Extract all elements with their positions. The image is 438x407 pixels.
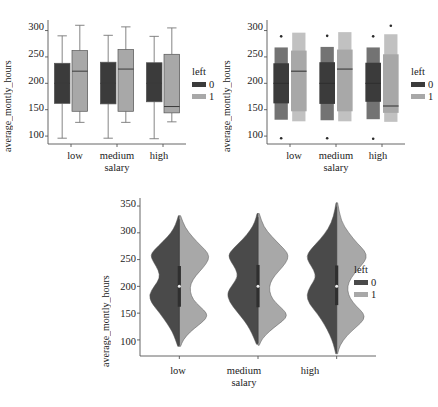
violinplot-panel: average_montly_hours 350 300 250 200 150… [100,180,438,407]
boxplot-box [164,28,180,122]
violin-body [307,203,336,354]
legend-swatch-1-icon [192,94,206,99]
box-body [72,51,88,112]
boxenplot-legend-label-1: 1 [428,91,433,102]
boxenplot-legend-title: left [411,66,433,77]
outlier-point [280,35,283,38]
violin-median-point [257,285,260,288]
legend-swatch-0-icon [411,82,425,87]
violin-median-point [178,285,181,288]
boxenplot-legend-label-0: 0 [428,79,433,90]
violinplot-legend-label-1: 1 [371,289,376,300]
violinplot-legend-title: left [354,264,376,275]
boxplot-xtick-medium: medium [100,150,134,161]
boxplot-legend-item-1[interactable]: 1 [192,91,214,102]
boxen-group [383,25,399,122]
boxen-group [337,32,353,121]
boxplot-xtick-high: high [150,150,169,161]
violinplot-legend: left 0 1 [354,264,376,301]
legend-swatch-0-icon [192,82,206,87]
boxenplot-legend-item-0[interactable]: 0 [411,79,433,90]
violinplot-xlabel: salary [204,377,284,388]
boxen-box [365,63,381,102]
boxen-group [365,35,381,140]
boxplot-box [146,36,162,138]
boxen-box [383,54,399,113]
boxenplot-xtick-low: low [286,150,302,161]
violin-body [228,214,258,345]
outlier-point [372,35,375,38]
boxplot-xlabel: salary [75,162,159,173]
violinplot-legend-label-0: 0 [371,277,376,288]
boxplot-legend-label-1: 1 [209,91,214,102]
boxenplot-legend-item-1[interactable]: 1 [411,91,433,102]
boxplot-xtick-low: low [67,150,83,161]
violinplot-xtick-medium: medium [227,365,261,376]
box-body [164,54,180,113]
legend-swatch-1-icon [411,94,425,99]
violinplot-canvas [100,180,438,407]
outlier-point [280,137,283,140]
outlier-point [390,25,393,28]
boxplot-box [54,36,70,138]
boxplot-legend-item-0[interactable]: 0 [192,79,214,90]
boxen-group [273,35,289,139]
box-body [118,50,134,112]
violin-body [150,216,180,347]
boxenplot-panel: average_montly_hours 300 250 200 150 100… [219,0,438,180]
violin-median-point [335,285,338,288]
boxplot-legend-label-0: 0 [209,79,214,90]
boxenplot-xlabel: salary [294,162,378,173]
boxplot-box [118,27,134,123]
boxplot-panel: average_montly_hours 300 250 200 150 100… [0,0,219,180]
violinplot-xtick-low: low [170,365,186,376]
boxen-group [319,35,335,140]
boxen-box [337,50,353,112]
boxplot-legend-title: left [192,66,214,77]
boxen-box [291,51,307,112]
boxen-group [291,33,307,122]
boxenplot-legend: left 0 1 [411,66,433,103]
boxplot-box [100,35,116,138]
violinplot-legend-item-0[interactable]: 0 [354,277,376,288]
outlier-point [326,137,329,140]
boxenplot-xtick-medium: medium [319,150,353,161]
boxenplot-xtick-high: high [369,150,388,161]
legend-swatch-0-icon [354,280,368,285]
violinplot-xtick-high: high [301,365,320,376]
boxplot-legend: left 0 1 [192,66,214,103]
legend-swatch-1-icon [354,292,368,297]
boxplot-box [72,25,88,122]
box-body [146,63,162,102]
violin-body [179,216,208,347]
violinplot-legend-item-1[interactable]: 1 [354,289,376,300]
outlier-point [326,35,329,38]
violin-body [258,214,288,346]
outlier-point [372,137,375,140]
